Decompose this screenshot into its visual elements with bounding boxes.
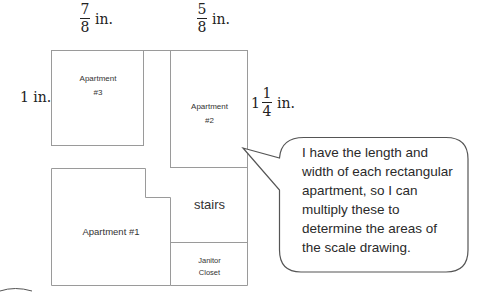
mixed-number-whole: 1 xyxy=(251,95,260,111)
unit-label: in. xyxy=(212,11,230,27)
callout-line: determine the areas of xyxy=(302,219,464,238)
room-label-line: Janitor xyxy=(171,255,248,267)
dimension-apt3-height: 1 in. xyxy=(20,89,51,105)
fraction-denominator: 8 xyxy=(81,20,90,35)
room-label-apartment-3: Apartment #3 xyxy=(52,72,144,100)
callout-line: multiply these to xyxy=(302,200,464,219)
fraction-numerator: 1 xyxy=(262,86,271,101)
room-label-line: Apartment xyxy=(171,100,248,114)
callout-line: apartment, so I can xyxy=(302,181,464,200)
partial-shape-edge xyxy=(0,289,32,292)
room-label-line: Closet xyxy=(171,267,248,279)
dimension-apt2-width: 5 8 in. xyxy=(197,2,230,35)
room-label-line: #3 xyxy=(52,86,144,100)
dimension-apt2-height: 1 1 4 in. xyxy=(251,86,295,119)
callout-line: I have the length and xyxy=(302,143,464,162)
room-label-janitor-closet: Janitor Closet xyxy=(171,255,248,279)
floor-plan-diagram: 7 8 in. 5 8 in. 1 in. 1 1 4 in. Apartmen… xyxy=(0,0,488,292)
fraction-numerator: 7 xyxy=(81,2,90,17)
callout-line: the scale drawing. xyxy=(302,238,464,257)
dimension-apt3-width: 7 8 in. xyxy=(80,2,113,35)
unit-label: in. xyxy=(277,95,295,111)
unit-label: in. xyxy=(95,11,113,27)
room-label-apartment-1: Apartment #1 xyxy=(52,225,170,239)
fraction-numerator: 5 xyxy=(198,2,207,17)
room-label-line: #2 xyxy=(171,114,248,128)
room-label-stairs: stairs xyxy=(171,197,248,212)
fraction-denominator: 8 xyxy=(198,20,207,35)
room-label-apartment-2: Apartment #2 xyxy=(171,100,248,128)
callout-line: width of each rectangular xyxy=(302,162,464,181)
fraction-denominator: 4 xyxy=(262,104,271,119)
room-label-line: Apartment xyxy=(52,72,144,86)
callout-text: I have the length and width of each rect… xyxy=(302,143,464,257)
